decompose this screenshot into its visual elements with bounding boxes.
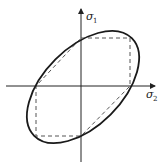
sigma1-label: σ 1: [86, 10, 97, 25]
svg-text:1: 1: [93, 17, 97, 25]
yield-diagram: σ 1 σ 2: [0, 0, 165, 167]
sigma2-label: σ 2: [146, 88, 157, 103]
tresca-hexagon: [36, 38, 130, 136]
von-mises-ellipse: [7, 11, 160, 164]
svg-text:2: 2: [153, 95, 157, 103]
